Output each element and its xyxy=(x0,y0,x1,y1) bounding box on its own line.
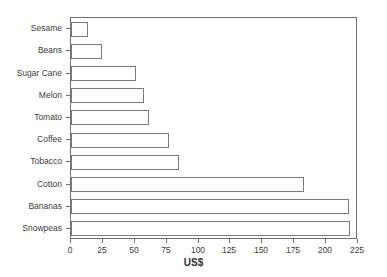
y-axis-tick-label: Coffee xyxy=(0,134,62,144)
x-axis-tick-label: 200 xyxy=(318,245,332,255)
bar-row xyxy=(71,88,358,103)
bar[interactable] xyxy=(71,88,144,103)
bar-row xyxy=(71,110,358,125)
bar-row xyxy=(71,177,358,192)
bar-row xyxy=(71,44,358,59)
x-axis-tick-label: 125 xyxy=(222,245,236,255)
y-axis-tick-label: Tomato xyxy=(0,112,62,122)
y-axis-tick-label: Cotton xyxy=(0,179,62,189)
bar[interactable] xyxy=(71,66,136,81)
y-axis-tick-label: Snowpeas xyxy=(0,223,62,233)
bar-row xyxy=(71,221,358,236)
y-axis-tick-label: Bananas xyxy=(0,201,62,211)
y-axis-tick-label: Sesame xyxy=(0,23,62,33)
bar[interactable] xyxy=(71,177,304,192)
x-axis-tick-mark xyxy=(261,239,262,243)
plot-area xyxy=(70,17,357,239)
y-axis-tick-label: Sugar Cane xyxy=(0,68,62,78)
x-axis-title: US$ xyxy=(0,257,387,268)
x-axis-tick-mark xyxy=(357,239,358,243)
x-axis-tick-label: 50 xyxy=(129,245,138,255)
bar[interactable] xyxy=(71,110,149,125)
bar-chart: SesameBeansSugar CaneMelonTomatoCoffeeTo… xyxy=(0,0,387,277)
x-axis-tick-mark xyxy=(198,239,199,243)
x-axis-tick-mark xyxy=(102,239,103,243)
x-axis-tick-mark xyxy=(134,239,135,243)
bar[interactable] xyxy=(71,221,350,236)
x-axis-tick-mark xyxy=(325,239,326,243)
bar[interactable] xyxy=(71,155,179,170)
bar-row xyxy=(71,66,358,81)
x-axis-tick-label: 0 xyxy=(68,245,73,255)
y-axis-tick-label: Tobacco xyxy=(0,156,62,166)
bar-row xyxy=(71,155,358,170)
bar[interactable] xyxy=(71,22,88,37)
x-axis-tick-label: 25 xyxy=(97,245,106,255)
x-axis-tick-mark xyxy=(70,239,71,243)
bar-row xyxy=(71,199,358,214)
x-axis-tick-mark xyxy=(229,239,230,243)
x-axis-tick-label: 150 xyxy=(254,245,268,255)
bar[interactable] xyxy=(71,133,169,148)
y-axis-tick-label: Melon xyxy=(0,90,62,100)
x-axis-tick-label: 225 xyxy=(350,245,364,255)
bar[interactable] xyxy=(71,44,102,59)
x-axis-tick-label: 100 xyxy=(191,245,205,255)
x-axis-tick-mark xyxy=(293,239,294,243)
x-axis-tick-label: 75 xyxy=(161,245,170,255)
bar-row xyxy=(71,22,358,37)
bar[interactable] xyxy=(71,199,349,214)
x-axis-tick-label: 175 xyxy=(286,245,300,255)
y-axis-tick-label: Beans xyxy=(0,45,62,55)
bar-row xyxy=(71,133,358,148)
x-axis-tick-mark xyxy=(166,239,167,243)
